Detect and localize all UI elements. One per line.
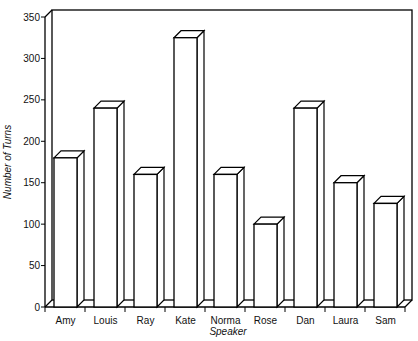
bar-front-face [134,174,157,307]
x-tick-label: Laura [333,315,359,326]
x-tick-label: Amy [56,315,76,326]
y-tick-label: 200 [23,136,40,147]
x-tick-label: Ray [137,315,155,326]
y-tick-label: 350 [23,12,40,23]
x-tick-label: Kate [175,315,196,326]
floor-left-edge [45,300,52,307]
bar-side-face [277,217,284,307]
bar-front-face [54,158,77,307]
bar-front-face [374,203,397,307]
bar-front-face [214,174,237,307]
bar-side-face [357,176,364,307]
bar-chart: 050100150200250300350Number of TurnsAmyL… [0,0,418,341]
y-axis-title: Number of Turns [2,125,13,199]
bar-side-face [157,167,164,307]
y-tick-label: 250 [23,94,40,105]
x-tick-label: Sam [375,315,396,326]
y-tick-label: 100 [23,219,40,230]
y-tick-label: 300 [23,53,40,64]
x-tick-label: Louis [94,315,118,326]
x-tick-label: Norma [210,315,240,326]
bar-front-face [254,224,277,307]
bar-front-face [334,183,357,307]
bar-side-face [77,151,84,307]
bar-front-face [174,38,197,307]
x-tick-label: Dan [296,315,314,326]
bar-side-face [197,31,204,307]
x-tick-label: Rose [254,315,278,326]
x-axis-title: Speaker [209,326,247,337]
bar-front-face [294,108,317,307]
y-tick-label: 0 [34,302,40,313]
bar-side-face [317,101,324,307]
bar-side-face [397,196,404,307]
bar-amy: Amy [45,151,84,326]
floor-right-edge [405,300,412,307]
y-tick-label: 50 [29,260,41,271]
frame-top-left-edge [45,10,52,17]
bar-side-face [117,101,124,307]
y-tick-label: 150 [23,177,40,188]
bar-side-face [237,167,244,307]
y-axis-ticks: 050100150200250300350 [23,12,45,313]
bar-front-face [94,108,117,307]
